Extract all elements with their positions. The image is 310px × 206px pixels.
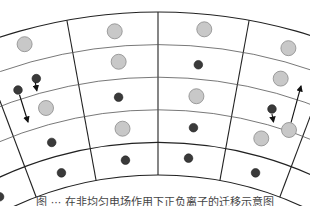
radial-grid-line: [67, 20, 96, 180]
large-particle: [107, 24, 122, 39]
large-particle: [115, 121, 130, 136]
migration-arrow: [272, 114, 274, 122]
large-particle: [197, 22, 212, 37]
migration-arrow: [19, 95, 28, 122]
radial-grid-line: [280, 45, 310, 198]
large-particle: [189, 89, 204, 104]
large-particle: [254, 131, 269, 146]
figure-caption: 图 ··· 在非均匀电场作用下正负离子的迁移示意图: [0, 196, 310, 206]
small-particle: [268, 105, 277, 114]
arc-grid-line: [0, 12, 310, 85]
caption-text: 图 ··· 在非均匀电场作用下正负离子的迁移示意图: [36, 196, 273, 206]
small-particle: [184, 154, 193, 163]
small-particle: [57, 169, 66, 178]
small-particle: [194, 60, 203, 69]
small-particle: [114, 93, 123, 102]
large-particle: [281, 41, 296, 56]
small-particle: [121, 156, 130, 165]
large-particle: [39, 101, 54, 116]
radial-grid-line: [220, 20, 249, 180]
small-particle: [14, 86, 23, 95]
small-particle: [189, 123, 198, 132]
migration-arrow: [35, 83, 37, 91]
large-particle: [17, 37, 32, 52]
large-particle: [282, 123, 297, 138]
large-particle: [111, 54, 126, 69]
migration-arrow: [291, 86, 301, 122]
large-particle: [273, 71, 288, 86]
annular-grid-diagram: [0, 0, 310, 206]
small-particle: [47, 138, 56, 147]
particles: [0, 22, 310, 201]
small-particle: [251, 169, 260, 178]
arc-grid-line: [0, 142, 310, 196]
small-particle: [32, 74, 41, 83]
